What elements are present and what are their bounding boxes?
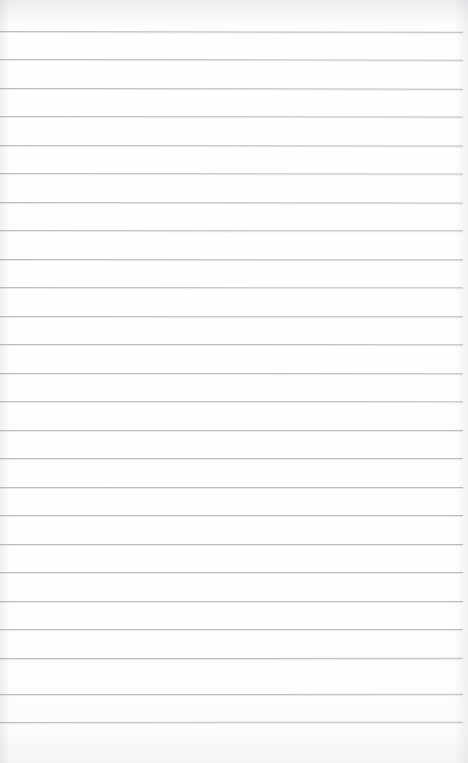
rule-line <box>0 145 463 146</box>
ruled-lines-group <box>0 0 468 763</box>
rule-line <box>0 722 463 723</box>
rule-line <box>0 31 463 33</box>
rule-line <box>0 316 463 317</box>
rule-line <box>0 173 463 174</box>
rule-line <box>0 572 463 573</box>
rule-line <box>0 658 463 659</box>
rule-line <box>0 287 463 288</box>
rule-line <box>0 601 463 602</box>
rule-line <box>0 458 463 459</box>
rule-line <box>0 373 463 374</box>
rule-line <box>0 430 463 431</box>
rule-line <box>0 629 463 630</box>
lined-paper-page <box>0 0 468 763</box>
rule-line <box>0 116 463 117</box>
rule-line <box>0 88 463 90</box>
rule-line <box>0 202 463 203</box>
rule-line <box>0 515 463 516</box>
rule-line <box>0 544 463 545</box>
rule-line <box>0 694 463 695</box>
rule-line <box>0 344 463 345</box>
rule-line <box>0 230 463 231</box>
rule-line <box>0 259 463 260</box>
rule-line <box>0 401 463 402</box>
rule-line <box>0 59 463 61</box>
rule-line <box>0 487 463 488</box>
